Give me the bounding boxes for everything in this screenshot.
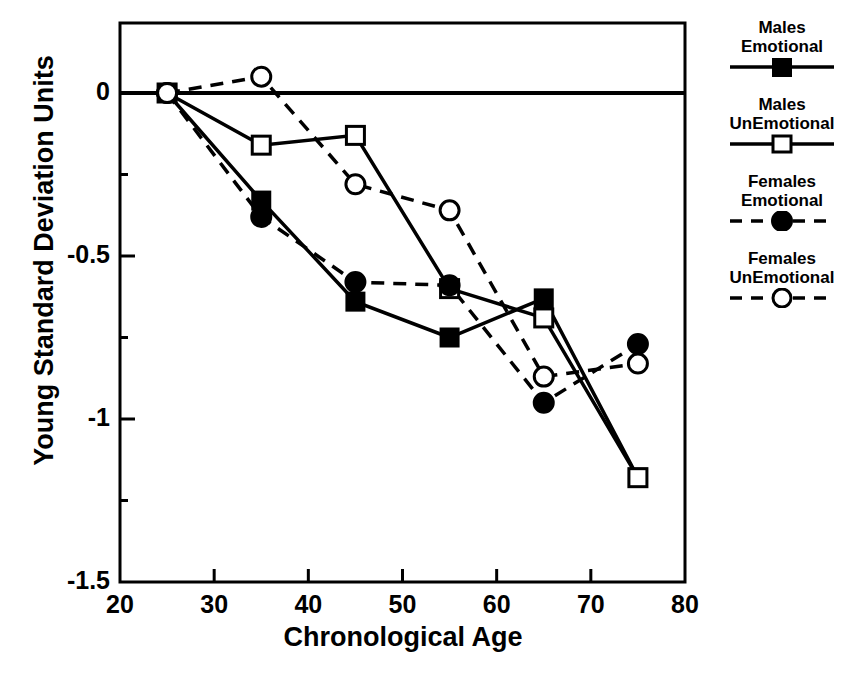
- marker-open-square: [535, 309, 553, 327]
- x-tick-label: 80: [655, 590, 715, 619]
- marker-filled-square: [346, 293, 364, 311]
- legend-label-line1: Males: [700, 95, 864, 114]
- legend-marker-filled-square: [722, 57, 842, 77]
- y-tick-label: 0: [38, 77, 110, 106]
- marker-filled-circle: [628, 334, 648, 354]
- marker-open-circle: [346, 175, 365, 194]
- x-tick-label: 40: [278, 590, 338, 619]
- marker-open-square: [252, 136, 270, 154]
- x-axis-title: Chronological Age: [120, 622, 686, 653]
- marker-filled-circle: [534, 393, 554, 413]
- series-line-3: [167, 77, 638, 377]
- y-tick-label: -0.5: [38, 240, 110, 269]
- marker-filled-square: [535, 289, 553, 307]
- legend-item: MalesEmotional: [700, 18, 864, 81]
- marker-open-circle: [158, 84, 177, 103]
- marker-filled-circle: [251, 207, 271, 227]
- legend-label-line2: UnEmotional: [700, 268, 864, 287]
- y-tick-label: -1: [38, 403, 110, 432]
- legend-label-line1: Females: [700, 249, 864, 268]
- x-tick-label: 50: [373, 590, 433, 619]
- legend-label-line2: Emotional: [700, 37, 864, 56]
- legend-label-line1: Females: [700, 172, 864, 191]
- x-tick-label: 70: [561, 590, 621, 619]
- marker-filled-circle: [345, 272, 365, 292]
- y-tick-label: -1.5: [38, 566, 110, 595]
- legend-label-line1: Males: [700, 18, 864, 37]
- legend-marker-open-circle: [722, 288, 842, 308]
- x-tick-label: 60: [467, 590, 527, 619]
- marker-open-circle: [628, 354, 647, 373]
- marker-open-square: [346, 126, 364, 144]
- legend-symbol: [773, 289, 791, 307]
- chart-legend: MalesEmotionalMalesUnEmotionalFemalesEmo…: [700, 18, 864, 326]
- legend-symbol: [772, 211, 792, 231]
- marker-filled-circle: [440, 275, 460, 295]
- legend-label-line2: UnEmotional: [700, 114, 864, 133]
- marker-open-circle: [534, 367, 553, 386]
- legend-symbol: [773, 136, 791, 152]
- legend-label-line2: Emotional: [700, 191, 864, 210]
- marker-filled-square: [441, 329, 459, 347]
- legend-marker-filled-circle: [722, 211, 842, 231]
- plot-frame: [120, 23, 685, 582]
- legend-item: FemalesUnEmotional: [700, 249, 864, 312]
- marker-open-circle: [440, 201, 459, 220]
- marker-open-circle: [252, 67, 271, 86]
- legend-item: MalesUnEmotional: [700, 95, 864, 158]
- chart-figure: Young Standard Deviation Units Chronolog…: [0, 0, 864, 675]
- x-tick-label: 30: [184, 590, 244, 619]
- marker-open-square: [629, 469, 647, 487]
- legend-symbol: [773, 59, 791, 77]
- legend-item: FemalesEmotional: [700, 172, 864, 235]
- legend-marker-open-square: [722, 134, 842, 154]
